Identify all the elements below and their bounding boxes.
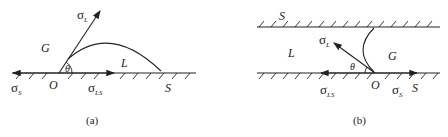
panel-b: S σL L G θ O σLS σS S (b) [257,9,440,127]
gas-label: G [41,41,50,55]
gas-label: G [388,49,397,63]
solid-hatching [16,73,190,79]
caption-a: (a) [86,114,99,127]
caption-b: (b) [353,114,366,127]
sigma-s-label: σS [392,82,403,99]
sigma-l-label: σL [77,7,88,24]
theta-label: θ [350,61,355,72]
sigma-ls-label: σLS [88,80,103,97]
contact-angle-diagram: σL G L θ O σS σLS S (a) [0,0,448,137]
panel-a: σL G L θ O σS σLS S (a) [11,7,196,127]
sigma-l-label: σL [319,32,330,49]
liquid-label: L [120,56,128,70]
theta-label: θ [65,63,70,74]
bottom-solid-label: S [412,81,418,95]
bottom-solid-hatching [259,73,438,79]
liquid-label: L [287,46,295,60]
sigma-s-label: σS [11,80,22,97]
angle-arc [365,67,367,73]
solid-label: S [165,81,171,95]
origin-label: O [371,78,380,92]
sigma-ls-label: σLS [320,82,335,99]
origin-label: O [49,78,58,92]
top-solid-label: S [279,9,285,23]
droplet-arc [68,43,161,71]
